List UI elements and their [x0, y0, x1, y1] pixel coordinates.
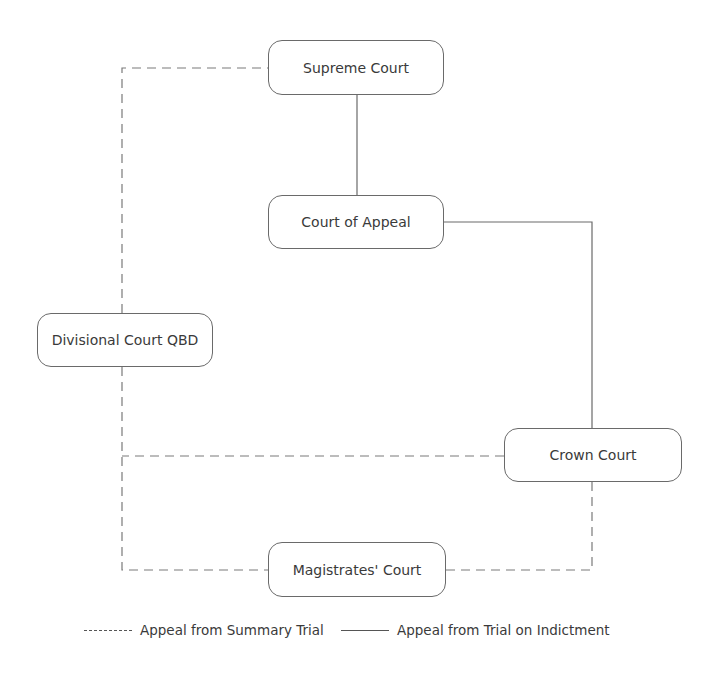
node-label: Magistrates' Court	[293, 562, 422, 578]
legend: Appeal from Summary Trial Appeal from Tr…	[0, 622, 722, 642]
node-supreme-court: Supreme Court	[268, 40, 444, 95]
legend-label-dashed: Appeal from Summary Trial	[140, 622, 324, 638]
edge-magistrates-crown	[446, 482, 592, 570]
node-label: Divisional Court QBD	[52, 332, 199, 348]
edge-divisional-supreme	[122, 68, 268, 313]
legend-item-dashed: Appeal from Summary Trial	[84, 622, 324, 638]
node-court-of-appeal: Court of Appeal	[268, 195, 444, 249]
node-crown-court: Crown Court	[504, 428, 682, 482]
node-label: Court of Appeal	[301, 214, 410, 230]
node-label: Supreme Court	[303, 60, 409, 76]
legend-item-solid: Appeal from Trial on Indictment	[341, 622, 610, 638]
legend-label-solid: Appeal from Trial on Indictment	[397, 622, 610, 638]
edge-crown-appeal	[444, 222, 592, 428]
node-magistrates-court: Magistrates' Court	[268, 542, 446, 597]
edge-magistrates-divisional	[122, 367, 268, 570]
node-divisional-court-qbd: Divisional Court QBD	[37, 313, 213, 367]
node-label: Crown Court	[549, 447, 636, 463]
dashed-line-swatch	[84, 630, 132, 631]
solid-line-swatch	[341, 630, 389, 631]
